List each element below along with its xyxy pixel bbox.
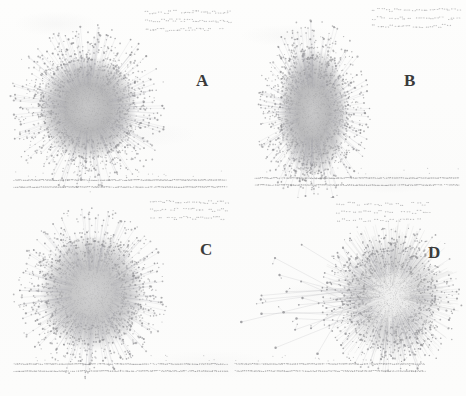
panel-b-graph	[233, 0, 466, 198]
panel-b-label: B	[404, 72, 415, 89]
panel-d-label: D	[428, 244, 440, 261]
panel-d-graph	[233, 198, 466, 396]
panel-a-graph	[0, 0, 233, 198]
panel-d: D	[233, 198, 466, 396]
network-figure: A B C D	[0, 0, 466, 396]
panel-a: A	[0, 0, 233, 198]
panel-c: C	[0, 198, 233, 396]
panel-c-label: C	[200, 241, 212, 258]
panel-b: B	[233, 0, 466, 198]
panel-c-graph	[0, 198, 233, 396]
panel-a-label: A	[196, 72, 208, 89]
